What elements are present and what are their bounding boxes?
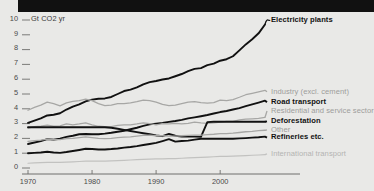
series-line-1 <box>28 90 265 110</box>
series-label-3: Residential and service sector <box>271 106 374 115</box>
series-label-0: Electricity plants <box>271 15 333 24</box>
y-tick-label: 10 <box>6 14 18 23</box>
x-tick-label: 1990 <box>141 177 171 186</box>
leader-line-5 <box>265 130 267 131</box>
y-tick-label: 2 <box>6 132 18 141</box>
y-tick-label: 6 <box>6 73 18 82</box>
y-tick-marks <box>22 20 30 168</box>
y-tick-label: 4 <box>6 103 18 112</box>
y-tick-label: 9 <box>6 29 18 38</box>
leader-line-7 <box>265 154 267 155</box>
y-tick-label: 0 <box>6 162 18 171</box>
series-line-7 <box>28 155 265 164</box>
series-line-5 <box>28 130 265 141</box>
x-tick-label: 1970 <box>13 177 43 186</box>
top-bar-gap <box>0 0 18 12</box>
series-label-2: Road transport <box>271 97 326 106</box>
y-tick-label: 7 <box>6 58 18 67</box>
chart-figure: Gt CO2 yr 012345678910 1970198019902000 … <box>0 0 374 191</box>
y-tick-label: 3 <box>6 117 18 126</box>
y-tick-label: 5 <box>6 88 18 97</box>
top-black-bar <box>18 0 374 12</box>
leader-line-electricity-plants <box>265 20 270 24</box>
y-tick-label: 8 <box>6 43 18 52</box>
label-leader-lines <box>265 20 270 155</box>
leader-line-2 <box>265 101 267 102</box>
x-tick-label: 1980 <box>77 177 107 186</box>
series-label-6: Refineries etc. <box>271 132 324 141</box>
leader-line-6 <box>265 137 267 138</box>
leader-line-1 <box>265 90 267 92</box>
series-line-0 <box>28 24 265 122</box>
x-tick-label: 2000 <box>205 177 235 186</box>
series-label-7: International transport <box>271 149 346 158</box>
leader-line-3 <box>265 111 267 117</box>
y-tick-label: 1 <box>6 147 18 156</box>
x-tick-marks <box>28 170 220 174</box>
series-lines <box>28 24 265 163</box>
series-label-1: Industry (excl. cement) <box>271 87 349 96</box>
